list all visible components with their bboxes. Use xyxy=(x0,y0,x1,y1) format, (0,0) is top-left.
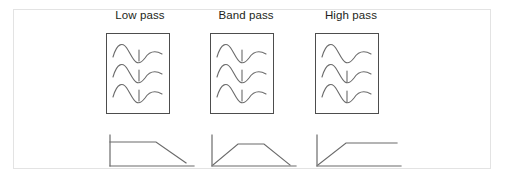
response-line-bandpass xyxy=(213,144,290,165)
waveform-trace-1-highpass xyxy=(322,45,371,63)
waveform-box-highpass xyxy=(315,33,379,114)
response-line-highpass xyxy=(318,143,397,165)
waveform-trace-2-lowpass xyxy=(113,65,162,83)
waveform-trace-3-lowpass xyxy=(113,85,162,103)
filter-title-highpass: High pass xyxy=(281,9,421,21)
waveform-box-bandpass xyxy=(210,33,274,114)
response-line-lowpass xyxy=(110,142,186,163)
filter-column-highpass: High pass xyxy=(281,0,421,180)
waveform-box-lowpass xyxy=(106,33,170,114)
waveform-trace-1-lowpass xyxy=(113,45,162,63)
response-curve-highpass xyxy=(313,133,405,171)
filter-types-figure: Low pass xyxy=(0,0,505,180)
